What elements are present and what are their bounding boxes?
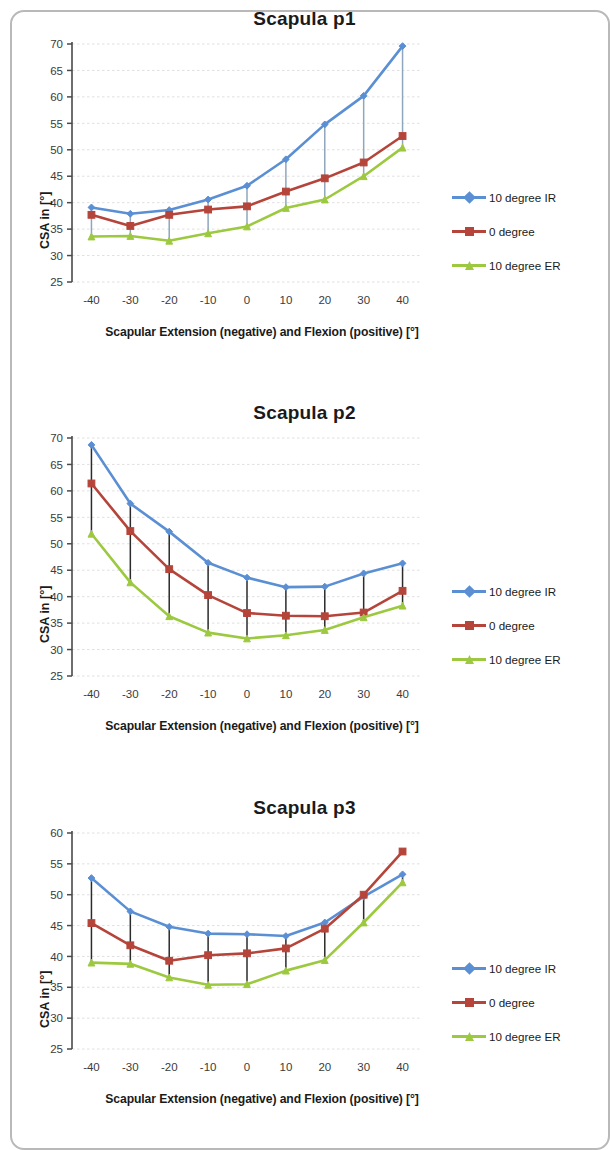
x-axis-title-p3: Scapular Extension (negative) and Flexio…: [52, 1091, 472, 1107]
chart-title-p3: Scapula p3: [0, 793, 597, 823]
legend-label-er: 10 degree ER: [489, 259, 561, 272]
plot-svg-p1: 25303540455055606570-40-30-20-1001020304…: [0, 34, 440, 324]
legend-swatch-zero: [452, 996, 486, 1008]
legend-swatch-zero: [452, 225, 486, 237]
legend-item-zero[interactable]: 0 degree: [452, 214, 561, 248]
legend-swatch-er: [452, 259, 486, 271]
y-axis-title-p2: CSA in [°]: [38, 586, 52, 643]
x-axis-title-p2: Scapular Extension (negative) and Flexio…: [52, 718, 472, 734]
svg-text:-30: -30: [122, 294, 139, 306]
legend-label-zero: 0 degree: [489, 619, 535, 632]
legend-p2: 10 degree IR 0 degree 10 degree ER: [452, 574, 561, 676]
legend-p1: 10 degree IR 0 degree 10 degree ER: [452, 180, 561, 282]
legend-item-ir[interactable]: 10 degree IR: [452, 574, 561, 608]
svg-text:-20: -20: [161, 688, 178, 700]
svg-text:30: 30: [357, 1061, 370, 1073]
svg-text:25: 25: [50, 670, 63, 682]
plot-area-p1: CSA in [°] 25303540455055606570-40-30-20…: [0, 34, 597, 324]
svg-text:55: 55: [50, 512, 63, 524]
svg-text:45: 45: [50, 170, 63, 182]
plot-svg-p3: 2530354045505560-40-30-20-10010203040: [0, 823, 440, 1091]
svg-text:70: 70: [50, 38, 63, 50]
svg-text:-40: -40: [83, 294, 100, 306]
svg-text:30: 30: [50, 250, 63, 262]
svg-text:65: 65: [50, 459, 63, 471]
svg-text:-20: -20: [161, 1061, 178, 1073]
legend-label-ir: 10 degree IR: [489, 962, 556, 975]
svg-text:35: 35: [50, 617, 63, 629]
legend-label-er: 10 degree ER: [489, 1030, 561, 1043]
svg-text:30: 30: [50, 1012, 63, 1024]
svg-text:45: 45: [50, 920, 63, 932]
chart-panel-p3: Scapula p3 CSA in [°] 2530354045505560-4…: [0, 793, 597, 1138]
legend-swatch-ir: [452, 191, 486, 203]
svg-text:35: 35: [50, 981, 63, 993]
svg-text:45: 45: [50, 564, 63, 576]
y-axis-title-p1: CSA in [°]: [38, 192, 52, 249]
legend-swatch-er: [452, 653, 486, 665]
svg-text:0: 0: [244, 688, 250, 700]
plot-svg-p2: 25303540455055606570-40-30-20-1001020304…: [0, 428, 440, 718]
svg-text:60: 60: [50, 485, 63, 497]
legend-item-zero[interactable]: 0 degree: [452, 608, 561, 642]
chart-title-p2: Scapula p2: [0, 398, 597, 428]
svg-text:20: 20: [318, 294, 331, 306]
legend-swatch-ir: [452, 962, 486, 974]
chart-panel-p2: Scapula p2 CSA in [°] 253035404550556065…: [0, 398, 597, 790]
svg-text:55: 55: [50, 118, 63, 130]
x-axis-title-p1: Scapular Extension (negative) and Flexio…: [52, 324, 472, 340]
svg-text:20: 20: [318, 1061, 331, 1073]
svg-text:30: 30: [50, 644, 63, 656]
chart-title-p1: Scapula p1: [0, 4, 597, 34]
svg-text:10: 10: [279, 1061, 292, 1073]
svg-text:65: 65: [50, 65, 63, 77]
legend-p3: 10 degree IR 0 degree 10 degree ER: [452, 951, 561, 1053]
svg-text:50: 50: [50, 144, 63, 156]
legend-item-ir[interactable]: 10 degree IR: [452, 951, 561, 985]
svg-text:40: 40: [50, 591, 63, 603]
svg-text:-30: -30: [122, 688, 139, 700]
svg-text:35: 35: [50, 223, 63, 235]
legend-swatch-ir: [452, 585, 486, 597]
svg-text:10: 10: [279, 294, 292, 306]
svg-text:25: 25: [50, 1043, 63, 1055]
legend-label-ir: 10 degree IR: [489, 191, 556, 204]
svg-text:40: 40: [50, 951, 63, 963]
svg-text:50: 50: [50, 538, 63, 550]
svg-text:70: 70: [50, 432, 63, 444]
svg-text:30: 30: [357, 688, 370, 700]
legend-label-er: 10 degree ER: [489, 653, 561, 666]
svg-text:40: 40: [396, 294, 409, 306]
svg-text:40: 40: [396, 1061, 409, 1073]
legend-swatch-er: [452, 1030, 486, 1042]
legend-item-er[interactable]: 10 degree ER: [452, 1019, 561, 1053]
svg-text:-10: -10: [200, 294, 217, 306]
legend-item-zero[interactable]: 0 degree: [452, 985, 561, 1019]
svg-text:-10: -10: [200, 688, 217, 700]
svg-text:10: 10: [279, 688, 292, 700]
svg-text:20: 20: [318, 688, 331, 700]
plot-area-p2: CSA in [°] 25303540455055606570-40-30-20…: [0, 428, 597, 718]
svg-text:-40: -40: [83, 1061, 100, 1073]
svg-text:0: 0: [244, 294, 250, 306]
legend-item-er[interactable]: 10 degree ER: [452, 642, 561, 676]
legend-label-zero: 0 degree: [489, 996, 535, 1009]
svg-text:0: 0: [244, 1061, 250, 1073]
legend-item-ir[interactable]: 10 degree IR: [452, 180, 561, 214]
svg-text:25: 25: [50, 276, 63, 288]
svg-text:60: 60: [50, 91, 63, 103]
y-axis-title-p3: CSA in [°]: [38, 971, 52, 1028]
svg-text:-20: -20: [161, 294, 178, 306]
legend-label-ir: 10 degree IR: [489, 585, 556, 598]
plot-area-p3: CSA in [°] 2530354045505560-40-30-20-100…: [0, 823, 597, 1091]
svg-text:-40: -40: [83, 688, 100, 700]
svg-text:40: 40: [50, 197, 63, 209]
svg-text:40: 40: [396, 688, 409, 700]
legend-item-er[interactable]: 10 degree ER: [452, 248, 561, 282]
svg-text:50: 50: [50, 889, 63, 901]
svg-text:-30: -30: [122, 1061, 139, 1073]
legend-swatch-zero: [452, 619, 486, 631]
svg-text:55: 55: [50, 858, 63, 870]
svg-text:-10: -10: [200, 1061, 217, 1073]
